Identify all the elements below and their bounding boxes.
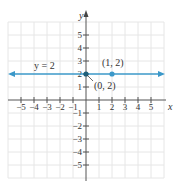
x-tick-label: −4 (29, 102, 39, 112)
y-tick-label: 1 (78, 82, 83, 92)
x-axis-label: x (167, 101, 173, 112)
x-tick-label: −3 (42, 102, 52, 112)
x-tick-label: −5 (16, 102, 26, 112)
leader-line (87, 75, 93, 81)
left-arrow-icon (8, 71, 15, 77)
x-tick-label: 3 (123, 102, 128, 112)
y-axis (83, 14, 89, 181)
y-tick-label: −5 (72, 160, 82, 170)
y-tick-label: −1 (72, 108, 82, 118)
y-tick-label: 4 (78, 43, 83, 53)
line-equation-label: y = 2 (34, 60, 55, 71)
x-tick-label: 5 (149, 102, 154, 112)
x-tick-label: 1 (97, 102, 102, 112)
y-tick-label: −4 (72, 147, 82, 157)
y-tick-label: −2 (72, 121, 82, 131)
y-tick-label: −3 (72, 134, 82, 144)
x-tick-label: 2 (110, 102, 115, 112)
x-tick-label: 4 (136, 102, 141, 112)
y-axis-arrow-icon (84, 10, 89, 17)
y-axis-label: y (78, 10, 84, 21)
y-tick-label: 5 (78, 30, 83, 40)
point-a-label: (0, 2) (94, 80, 116, 92)
point-1-2 (109, 71, 114, 76)
coordinate-plane: −5 −4 −3 −2 −1 1 2 3 4 5 5 4 3 2 1 −1 −2… (0, 0, 176, 188)
x-tick-labels: −5 −4 −3 −2 −1 1 2 3 4 5 (16, 102, 154, 112)
x-tick-label: −2 (55, 102, 65, 112)
point-b-label: (1, 2) (102, 57, 124, 69)
y-tick-label: 3 (78, 56, 83, 66)
